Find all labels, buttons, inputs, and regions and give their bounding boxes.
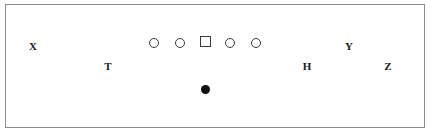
position-z-label: Z [384, 61, 391, 72]
position-x-label: X [29, 41, 37, 52]
position-y-label: Y [345, 41, 353, 52]
lineman-left-tackle-marker [149, 38, 159, 48]
position-h-label: H [303, 61, 312, 72]
field-boundary-box: XTHYZ [5, 4, 425, 128]
quarterback-ball-marker [201, 85, 210, 94]
lineman-left-guard-marker [175, 38, 185, 48]
formation-diagram: XTHYZ [0, 0, 432, 136]
center-marker [200, 36, 211, 47]
lineman-right-guard-marker [225, 38, 235, 48]
lineman-right-tackle-marker [251, 38, 261, 48]
position-t-label: T [104, 61, 111, 72]
